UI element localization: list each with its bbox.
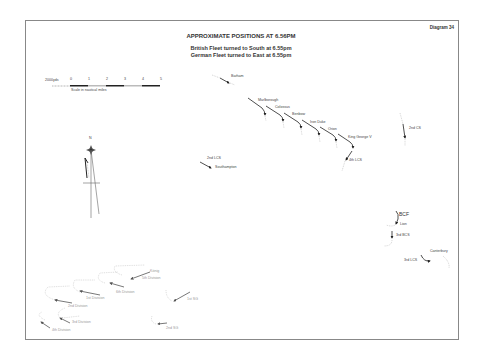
compass-rose-icon xyxy=(83,145,100,218)
track-2nd-lcs xyxy=(200,162,211,168)
track-4th-lcs xyxy=(342,151,352,171)
tracks-british-battleships xyxy=(248,98,353,148)
tracks-german-fleet xyxy=(39,265,190,328)
track-3rd-bcs xyxy=(384,231,392,246)
track-2nd-cs xyxy=(400,113,405,146)
track-barham xyxy=(212,75,235,85)
diagram-graphics xyxy=(0,0,482,360)
track-3rd-lcs xyxy=(421,255,449,268)
scale-bar xyxy=(52,85,160,87)
track-bcf xyxy=(386,211,398,226)
